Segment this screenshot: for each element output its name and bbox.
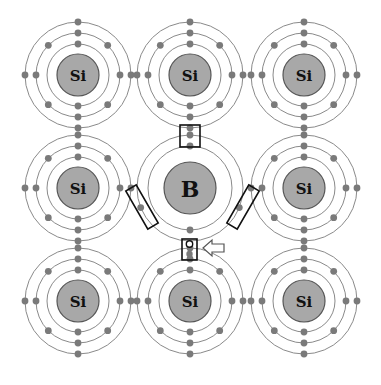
valence-electron [301, 238, 308, 245]
atom-si-bottom-center: Si [134, 245, 247, 358]
electron [45, 42, 52, 49]
electron [343, 298, 350, 305]
electron [145, 298, 152, 305]
atom-label: Si [70, 293, 87, 311]
electron [216, 327, 223, 334]
valence-electron [248, 72, 255, 79]
electron [330, 155, 337, 162]
electron [187, 41, 194, 48]
valence-electron [75, 19, 82, 26]
atom-si-top-left: Si [22, 19, 135, 132]
electron [330, 268, 337, 275]
electron [157, 327, 164, 334]
hole-icon [186, 241, 192, 247]
electron [187, 329, 194, 336]
electron [104, 101, 111, 108]
electron [330, 327, 337, 334]
electron [104, 268, 111, 275]
valence-electron [75, 351, 82, 358]
valence-electron [240, 72, 247, 79]
electron [301, 340, 308, 347]
boron-doped-silicon-lattice-diagram: SiSiSiSiBSiSiSiSi [0, 0, 381, 385]
electron [157, 42, 164, 49]
valence-electron [301, 125, 308, 132]
electron [187, 103, 194, 110]
valence-electron [75, 238, 82, 245]
electron [343, 185, 350, 192]
valence-electron [187, 351, 194, 358]
atom-label: Si [296, 67, 313, 85]
electron [75, 227, 82, 234]
electron [104, 327, 111, 334]
valence-electron [137, 204, 144, 211]
electron [75, 256, 82, 263]
atom-label: Si [182, 67, 199, 85]
valence-electron [187, 132, 194, 139]
atom-label: Si [296, 293, 313, 311]
atom-label: Si [70, 67, 87, 85]
electron [271, 42, 278, 49]
electron [104, 214, 111, 221]
atom-si-top-center: Si [134, 19, 247, 132]
electron [45, 214, 52, 221]
valence-electron [187, 19, 194, 26]
electron [75, 216, 82, 223]
valence-electron [22, 72, 29, 79]
electron [45, 327, 52, 334]
electron [75, 329, 82, 336]
electron [259, 72, 266, 79]
electron [45, 101, 52, 108]
electron [157, 268, 164, 275]
atom-label: Si [70, 180, 87, 198]
electron [33, 185, 40, 192]
electron [104, 155, 111, 162]
electron [75, 41, 82, 48]
atom-si-bottom-left: Si [22, 245, 135, 358]
electron [330, 42, 337, 49]
valence-electron [354, 298, 361, 305]
electron [301, 114, 308, 121]
valence-electron [22, 185, 29, 192]
electron [216, 101, 223, 108]
electron [301, 329, 308, 336]
electron [75, 114, 82, 121]
electron [187, 30, 194, 37]
valence-electron [248, 298, 255, 305]
valence-electron [301, 19, 308, 26]
electron [75, 143, 82, 150]
valence-electron [301, 351, 308, 358]
electron [301, 216, 308, 223]
atom-si-bottom-right: Si [248, 245, 361, 358]
electron [33, 298, 40, 305]
atom-si-top-right: Si [248, 19, 361, 132]
electron [117, 185, 124, 192]
valence-electron [75, 245, 82, 252]
electron [187, 114, 194, 121]
electron [75, 267, 82, 274]
electron [187, 227, 194, 234]
electron [75, 340, 82, 347]
atom-b-center: B [137, 132, 243, 241]
electron [157, 101, 164, 108]
atom-label: Si [296, 180, 313, 198]
valence-electron [354, 72, 361, 79]
atom-label: Si [182, 293, 199, 311]
electron [229, 298, 236, 305]
electron [187, 267, 194, 274]
electron [75, 103, 82, 110]
electron [259, 298, 266, 305]
valence-electron [75, 125, 82, 132]
atom-si-mid-left: Si [22, 132, 135, 245]
electron [104, 42, 111, 49]
valence-electron [240, 298, 247, 305]
electron [301, 41, 308, 48]
electron [45, 268, 52, 275]
electron [301, 227, 308, 234]
electron [330, 214, 337, 221]
electron [301, 256, 308, 263]
valence-electron [301, 245, 308, 252]
valence-electron [22, 298, 29, 305]
electron [187, 143, 194, 150]
electron [301, 267, 308, 274]
valence-electron [134, 298, 141, 305]
